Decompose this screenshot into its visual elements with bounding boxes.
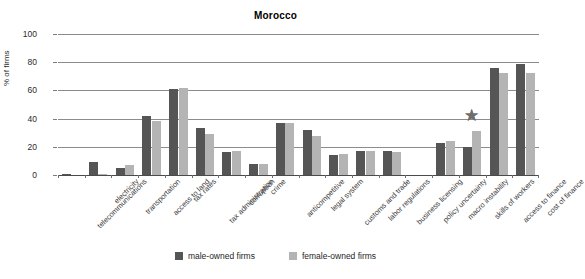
bar-female [312, 136, 321, 175]
bar-female [366, 151, 375, 175]
y-tick-mark-60 [53, 90, 57, 91]
chart-legend: male-owned firmsfemale-owned firms [0, 251, 551, 261]
bar-male [89, 162, 98, 175]
bar-group [222, 34, 241, 175]
bar-male [329, 155, 338, 175]
bar-female [125, 165, 134, 175]
y-tick-label-80: 80 [0, 58, 37, 67]
y-tick-label-40: 40 [0, 115, 37, 124]
legend-item: male-owned firms [175, 251, 255, 261]
y-tick-mark-80 [53, 62, 57, 63]
bar-female [179, 88, 188, 175]
bar-group [62, 34, 81, 175]
y-axis-title: % of firms [2, 50, 11, 86]
y-tick-label-20: 20 [0, 143, 37, 152]
bar-male [516, 64, 525, 175]
bar-female [285, 123, 294, 175]
bar-male [303, 130, 312, 175]
legend-swatch-icon [289, 252, 297, 260]
bar-male [356, 151, 365, 175]
bar-male [490, 68, 499, 175]
bar-male [116, 168, 125, 175]
chart-title: Morocco [0, 10, 551, 21]
bar-male [169, 89, 178, 175]
y-tick-mark-20 [53, 147, 57, 148]
bar-group [356, 34, 375, 175]
bar-female [339, 154, 348, 175]
bar-group [383, 34, 402, 175]
bar-group [196, 34, 215, 175]
bar-female [446, 141, 455, 175]
bar-group [169, 34, 188, 175]
bar-female [526, 73, 535, 175]
bar-group [516, 34, 535, 175]
legend-swatch-icon [175, 252, 183, 260]
bar-female [232, 151, 241, 175]
bar-female [259, 164, 268, 175]
bar-male [62, 174, 71, 175]
bar-group [116, 34, 135, 175]
bar-male [383, 151, 392, 175]
x-axis-label: telecommunications [96, 177, 149, 230]
bar-group [463, 34, 482, 175]
bar-female [499, 73, 508, 175]
legend-label: female-owned firms [302, 251, 376, 261]
bar-female [392, 152, 401, 175]
legend-item: female-owned firms [289, 251, 376, 261]
bar-group [436, 34, 455, 175]
y-tick-label-60: 60 [0, 86, 37, 95]
plot-area: 020406080100★ [58, 34, 539, 175]
bar-group [410, 34, 429, 175]
y-tick-label-100: 100 [0, 30, 37, 39]
bar-group [249, 34, 268, 175]
bar-group [303, 34, 322, 175]
bar-male [142, 116, 151, 175]
bar-group [142, 34, 161, 175]
bar-male [222, 152, 231, 175]
bar-female [98, 174, 107, 175]
bar-male [249, 164, 258, 175]
bar-group [89, 34, 108, 175]
bar-male [436, 143, 445, 175]
bar-male [276, 123, 285, 175]
y-tick-mark-0 [53, 175, 57, 176]
legend-label: male-owned firms [188, 251, 255, 261]
bar-female [205, 134, 214, 175]
bar-group [490, 34, 509, 175]
bar-female [472, 131, 481, 175]
bar-group [329, 34, 348, 175]
bar-group [276, 34, 295, 175]
y-tick-mark-100 [53, 34, 57, 35]
bar-female [152, 121, 161, 175]
bar-male [463, 147, 472, 175]
x-axis-labels: telecommunicationselectricitytransportat… [58, 177, 539, 239]
bar-male [196, 128, 205, 175]
star-icon: ★ [464, 107, 479, 124]
y-tick-mark-40 [53, 119, 57, 120]
y-tick-label-0: 0 [0, 171, 37, 180]
